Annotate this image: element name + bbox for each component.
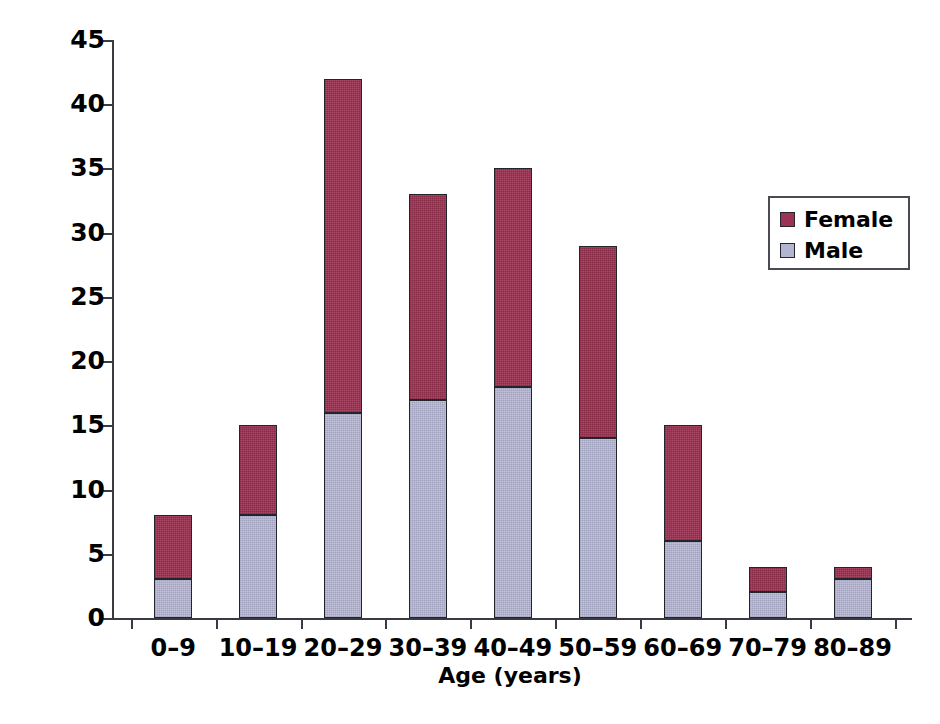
y-tick-label: 15 bbox=[45, 411, 105, 439]
bar-segment-male[interactable] bbox=[579, 438, 617, 618]
y-tick-label: 35 bbox=[45, 154, 105, 182]
x-tick-mark bbox=[895, 620, 897, 629]
y-tick-label: 10 bbox=[45, 476, 105, 504]
bar-stack[interactable] bbox=[749, 567, 787, 618]
y-axis-line bbox=[112, 40, 114, 620]
chart-container: Number of patients 051015202530354045 0–… bbox=[0, 0, 940, 724]
x-axis-title: Age (years) bbox=[110, 663, 910, 688]
bar-stack[interactable] bbox=[834, 567, 872, 618]
bar-stack[interactable] bbox=[494, 168, 532, 618]
y-tick-label: 20 bbox=[45, 347, 105, 375]
y-tick-label: 45 bbox=[45, 26, 105, 54]
x-axis-line bbox=[112, 618, 912, 620]
bar-stack[interactable] bbox=[239, 425, 277, 618]
bar-stack[interactable] bbox=[154, 515, 192, 618]
bar-segment-female[interactable] bbox=[494, 168, 532, 386]
bar-stack[interactable] bbox=[664, 425, 702, 618]
x-tick-mark bbox=[301, 620, 303, 629]
legend-label-male: Male bbox=[804, 240, 863, 262]
y-tick-label: 5 bbox=[45, 540, 105, 568]
x-tick-mark bbox=[555, 620, 557, 629]
bar-stack[interactable] bbox=[409, 194, 447, 618]
bar-segment-male[interactable] bbox=[494, 387, 532, 618]
bar-segment-male[interactable] bbox=[749, 592, 787, 618]
legend-swatch-male-icon bbox=[780, 243, 795, 258]
plot-area: 051015202530354045 bbox=[112, 40, 912, 620]
x-tick-mark bbox=[640, 620, 642, 629]
x-tick-mark bbox=[385, 620, 387, 629]
bar-segment-female[interactable] bbox=[239, 425, 277, 515]
legend: Female Male bbox=[768, 196, 910, 270]
bar-segment-male[interactable] bbox=[324, 413, 362, 619]
bar-segment-female[interactable] bbox=[154, 515, 192, 579]
legend-item-male[interactable]: Male bbox=[780, 235, 908, 266]
y-tick-label: 40 bbox=[45, 90, 105, 118]
bar-segment-female[interactable] bbox=[664, 425, 702, 541]
legend-item-female[interactable]: Female bbox=[780, 204, 908, 235]
bar-stack[interactable] bbox=[579, 246, 617, 618]
x-tick-mark bbox=[725, 620, 727, 629]
bar-segment-female[interactable] bbox=[324, 79, 362, 413]
legend-label-female: Female bbox=[804, 209, 893, 231]
bar-segment-female[interactable] bbox=[749, 567, 787, 593]
x-tick-mark bbox=[810, 620, 812, 629]
y-tick-label: 25 bbox=[45, 283, 105, 311]
bar-segment-male[interactable] bbox=[409, 400, 447, 618]
legend-swatch-female-icon bbox=[780, 212, 795, 227]
bar-segment-male[interactable] bbox=[154, 579, 192, 618]
x-tick-mark bbox=[131, 620, 133, 629]
bar-segment-male[interactable] bbox=[239, 515, 277, 618]
x-tick-mark bbox=[470, 620, 472, 629]
bar-segment-female[interactable] bbox=[579, 246, 617, 439]
bar-segment-male[interactable] bbox=[664, 541, 702, 618]
x-category-label: 80–89 bbox=[793, 634, 913, 662]
bar-segment-female[interactable] bbox=[409, 194, 447, 400]
bar-stack[interactable] bbox=[324, 79, 362, 618]
y-tick-label: 30 bbox=[45, 219, 105, 247]
bar-segment-female[interactable] bbox=[834, 567, 872, 580]
y-tick-label: 0 bbox=[45, 604, 105, 632]
bar-segment-male[interactable] bbox=[834, 579, 872, 618]
x-tick-mark bbox=[216, 620, 218, 629]
